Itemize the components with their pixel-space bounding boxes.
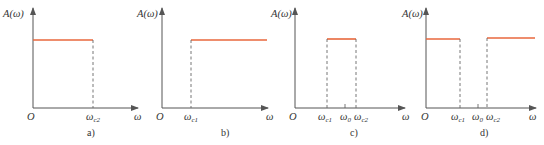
y-axis-label: A(ω)	[270, 8, 292, 20]
cutoff-label-wc2: ωc2	[354, 111, 369, 124]
origin-label: O	[27, 111, 35, 122]
cutoff-label-wc2: ωc2	[486, 111, 501, 124]
cutoff-label-wc2: ωc2	[86, 111, 101, 124]
cutoff-label-wc1: ωc1	[318, 111, 332, 124]
x-axis-label-d: ω	[529, 111, 536, 122]
panel-c-band-pass: ω A(ω) O ωc1 ω0 ωc2 c)	[266, 8, 405, 139]
panel-d-band-stop: ω A(ω) O ωc1 ω0 ωc2 ω d)	[401, 8, 536, 139]
origin-label: O	[156, 111, 164, 122]
center-label-w0: ω0	[472, 111, 483, 124]
y-axis-label: A(ω)	[2, 8, 24, 20]
caption-c: c)	[350, 127, 358, 139]
origin-label: O	[421, 111, 429, 122]
y-axis-label: A(ω)	[136, 8, 158, 20]
panel-b-high-pass: ω A(ω) O ωc1 b)	[134, 8, 268, 139]
cutoff-label-wc1: ωc1	[184, 111, 198, 124]
panel-a-low-pass: A(ω) O ωc2 a)	[2, 8, 138, 139]
center-label-w0: ω0	[340, 111, 351, 124]
x-axis-label-c: ω	[402, 111, 409, 122]
cutoff-label-wc1: ωc1	[451, 111, 465, 124]
origin-label: O	[289, 111, 297, 122]
x-axis-label-b: ω	[266, 111, 273, 122]
caption-d: d)	[480, 127, 488, 139]
x-axis-label-a: ω	[134, 111, 141, 122]
caption-b: b)	[221, 127, 229, 139]
filter-response-diagram: A(ω) O ωc2 a) ω A(ω) O ωc1 b) ω A(ω) O ω…	[0, 0, 544, 145]
y-axis-label: A(ω)	[401, 8, 423, 20]
caption-a: a)	[87, 127, 95, 139]
